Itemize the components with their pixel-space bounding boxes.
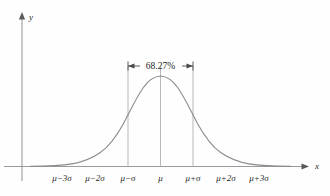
normal-distribution-figure: y x 68.27% μ−3σ bbox=[0, 0, 330, 196]
y-axis-label: y bbox=[28, 12, 33, 22]
x-tick-label-minus-3-sigma: μ−3σ bbox=[51, 173, 72, 183]
percent-annotation-label: 68.27% bbox=[146, 61, 175, 71]
x-axis-label: x bbox=[314, 161, 319, 171]
x-axis-arrowhead-icon bbox=[302, 163, 310, 169]
annotation-right-arrowhead-icon bbox=[187, 64, 194, 69]
plot-canvas: y x 68.27% μ−3σ bbox=[0, 0, 330, 196]
x-tick-label-mu: μ bbox=[157, 173, 163, 183]
x-tick-label-plus-3-sigma: μ+3σ bbox=[248, 173, 269, 183]
y-axis-arrowhead-icon bbox=[19, 12, 25, 20]
x-tick-label-plus-2-sigma: μ+2σ bbox=[215, 173, 236, 183]
y-axis: y bbox=[19, 12, 33, 181]
x-tick-label-minus-2-sigma: μ−2σ bbox=[84, 173, 105, 183]
x-tick-labels: μ−3σ μ−2σ μ−σ μ μ+σ μ+2σ μ+3σ bbox=[51, 173, 269, 183]
vertical-reference-lines bbox=[128, 66, 193, 167]
one-sigma-band-annotation: 68.27% bbox=[128, 61, 193, 71]
x-tick-label-minus-1-sigma: μ−σ bbox=[119, 173, 136, 183]
annotation-left-arrowhead-icon bbox=[128, 64, 135, 69]
x-tick-label-plus-1-sigma: μ+σ bbox=[184, 173, 201, 183]
